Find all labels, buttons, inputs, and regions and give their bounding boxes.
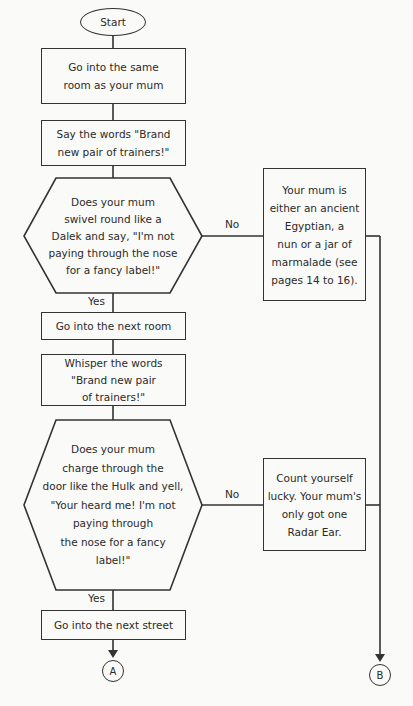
decision-2-text: Does your mum charge through the door li… xyxy=(43,440,184,570)
step-1-text: Go into the same room as your mum xyxy=(64,58,164,94)
flowchart-connectors xyxy=(0,0,413,706)
decision-1: Does your mum swivel round like a Dalek … xyxy=(30,180,196,292)
decision-1-text: Does your mum swivel round like a Dalek … xyxy=(48,194,177,279)
outcome-radar-ear: Count yourself lucky. Your mum's only go… xyxy=(263,458,366,551)
step-next-street: Go into the next street xyxy=(41,610,186,640)
step-4-text: Whisper the words "Brand new pair of tra… xyxy=(64,355,162,406)
connector-b: B xyxy=(369,664,391,686)
start-node: Start xyxy=(80,8,146,36)
decision-2: Does your mum charge through the door li… xyxy=(26,430,200,580)
step-2-text: Say the words "Brand new pair of trainer… xyxy=(57,125,171,161)
outcome-ancient-egyptian: Your mum is either an ancient Egyptian, … xyxy=(263,168,366,301)
outcome-1-text: Your mum is either an ancient Egyptian, … xyxy=(270,181,360,289)
step-5-text: Go into the next street xyxy=(54,616,173,634)
step-whisper-words: Whisper the words "Brand new pair of tra… xyxy=(41,354,186,406)
step-3-text: Go into the next room xyxy=(56,317,172,335)
step-next-room: Go into the next room xyxy=(41,312,186,340)
connector-a: A xyxy=(102,660,124,682)
outcome-2-text: Count yourself lucky. Your mum's only go… xyxy=(268,469,362,541)
start-label: Start xyxy=(100,13,126,31)
decision-1-no-label: No xyxy=(225,218,239,230)
decision-1-yes-label: Yes xyxy=(88,295,105,307)
decision-2-yes-label: Yes xyxy=(88,592,105,604)
step-say-words: Say the words "Brand new pair of trainer… xyxy=(41,120,186,166)
step-go-into-same-room: Go into the same room as your mum xyxy=(41,48,186,104)
decision-2-no-label: No xyxy=(225,488,239,500)
